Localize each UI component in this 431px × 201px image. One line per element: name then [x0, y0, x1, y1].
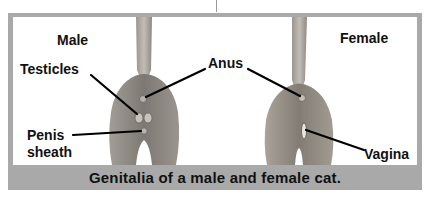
female-title: Female	[340, 31, 388, 46]
anus-label: Anus	[208, 56, 243, 71]
penis-sheath-label-line1: Penis	[27, 128, 64, 143]
figure-caption: Genitalia of a male and female cat.	[8, 165, 422, 190]
male-title: Male	[57, 33, 88, 48]
vagina-label: Vagina	[364, 147, 409, 162]
testicles-label: Testicles	[20, 62, 79, 77]
penis-sheath-label-line2: sheath	[27, 145, 72, 160]
female-cat-icon	[265, 17, 334, 165]
male-cat-icon	[109, 17, 179, 165]
